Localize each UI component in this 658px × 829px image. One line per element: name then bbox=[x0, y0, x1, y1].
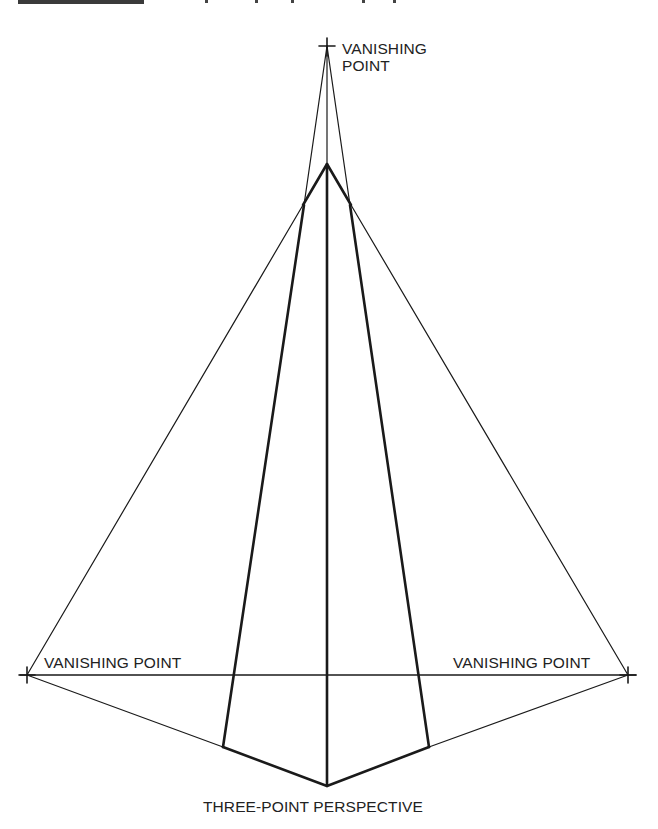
construction-line bbox=[27, 205, 303, 675]
construction-line bbox=[27, 675, 223, 747]
figure-caption: THREE-POINT PERSPECTIVE bbox=[203, 798, 423, 815]
construction-line bbox=[429, 675, 628, 747]
top-vanishing-point-label: VANISHING POINT bbox=[342, 40, 427, 74]
label-line: POINT bbox=[342, 57, 427, 74]
box-edges bbox=[223, 164, 429, 786]
construction-line bbox=[351, 205, 628, 675]
left-vanishing-point-label: VANISHING POINT bbox=[44, 654, 181, 671]
label-line: VANISHING bbox=[342, 40, 427, 57]
perspective-diagram bbox=[0, 0, 658, 829]
right-vanishing-point-label: VANISHING POINT bbox=[453, 654, 590, 671]
